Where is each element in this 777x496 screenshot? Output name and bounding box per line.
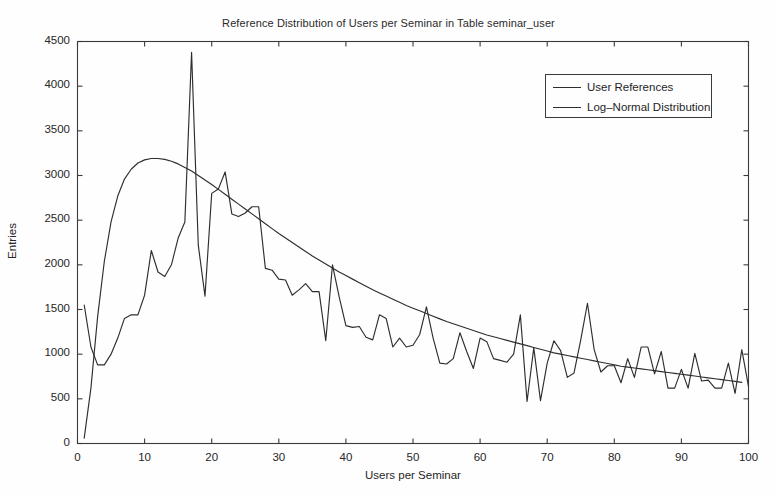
y-tick-label-7: 3500 [14,123,70,135]
x-tick-label-6: 60 [460,451,500,463]
x-tick-label-8: 80 [594,451,634,463]
x-tick-label-2: 20 [192,451,232,463]
legend-item-log-normal-distribution: Log–Normal Distribution [553,98,710,116]
y-tick-label-0: 0 [14,436,70,448]
y-tick-label-3: 1500 [14,302,70,314]
y-tick-label-4: 2000 [14,257,70,269]
legend-label-log-normal-distribution: Log–Normal Distribution [587,101,710,113]
x-tick-label-3: 30 [259,451,299,463]
x-tick-label-5: 50 [393,451,433,463]
y-tick-label-9: 4500 [14,34,70,46]
y-tick-label-1: 500 [14,391,70,403]
legend-item-user-references: User References [553,78,673,96]
x-tick-label-10: 100 [729,451,769,463]
x-tick-label-7: 70 [527,451,567,463]
x-tick-label-0: 0 [58,451,98,463]
legend-swatch-log-normal-distribution [553,107,581,108]
y-tick-label-8: 4000 [14,78,70,90]
y-tick-label-5: 2500 [14,212,70,224]
legend-label-user-references: User References [587,81,673,93]
series-log-normal-distribution [84,159,742,439]
y-axis-label: Entries [6,211,18,271]
y-tick-label-2: 1000 [14,346,70,358]
y-tick-label-6: 3000 [14,168,70,180]
x-axis-label: Users per Seminar [78,469,749,481]
chart-figure: Reference Distribution of Users per Semi… [0,0,777,496]
legend-swatch-user-references [553,87,581,88]
x-tick-label-9: 90 [661,451,701,463]
chart-legend: User References Log–Normal Distribution [545,74,712,118]
x-tick-label-4: 40 [326,451,366,463]
x-tick-label-1: 10 [125,451,165,463]
